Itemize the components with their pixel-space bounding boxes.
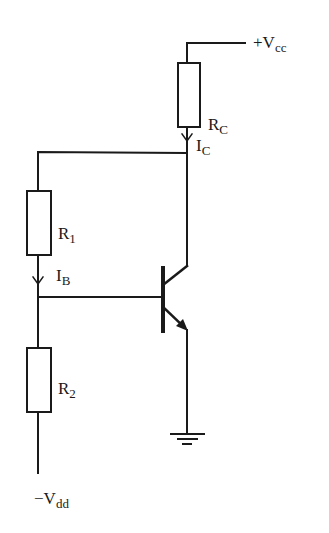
label-r1: R1 xyxy=(58,225,76,245)
label-r2: R2 xyxy=(58,380,76,400)
label-ib: IB xyxy=(56,267,70,287)
resistor-r2 xyxy=(27,348,51,412)
label-ic: IC xyxy=(196,137,210,157)
resistor-rc xyxy=(178,63,200,127)
resistor-r1 xyxy=(27,191,51,255)
vcc-wire xyxy=(187,43,245,63)
label-vdd: −Vdd xyxy=(34,490,69,510)
feedback-wire xyxy=(38,152,187,191)
label-rc: RC xyxy=(208,116,228,136)
transistor-collector xyxy=(163,266,187,285)
label-vcc: +Vcc xyxy=(253,34,286,54)
ground-icon xyxy=(171,434,204,444)
circuit-diagram xyxy=(0,0,329,533)
